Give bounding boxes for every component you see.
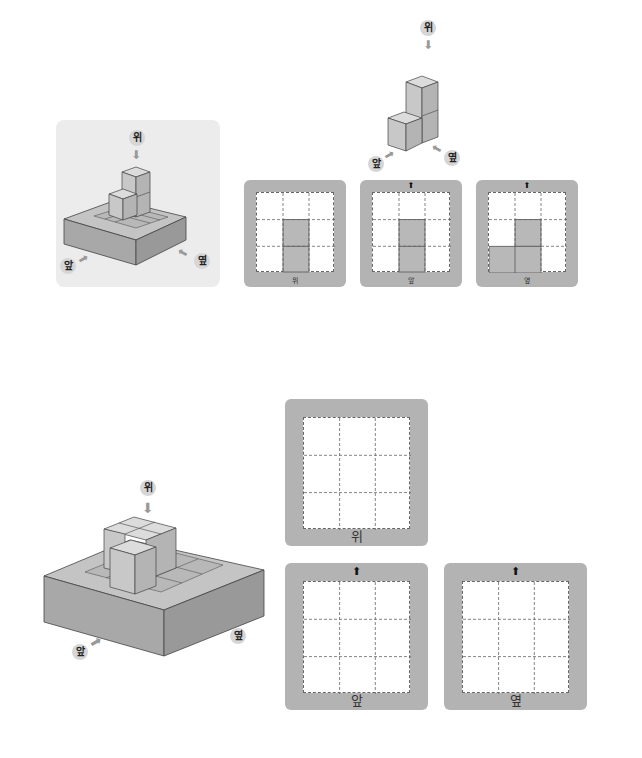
grid-lines: [463, 582, 570, 694]
problem-shape-3d: [30, 470, 280, 690]
label-side: 옆: [230, 628, 246, 644]
label-front: 앞: [368, 156, 384, 172]
view-label: 위: [244, 275, 346, 285]
label-top: 위: [420, 20, 436, 36]
grid-lines: [257, 193, 335, 273]
front-view-answer-grid[interactable]: [303, 581, 410, 693]
example-front-view-card: ⬆ 앞: [360, 180, 462, 287]
top-view-grid: [256, 192, 334, 272]
label-side: 옆: [444, 150, 460, 166]
down-arrow-icon: ⬇: [423, 38, 433, 52]
down-arrow-icon: ⬇: [142, 500, 154, 516]
label-front: 앞: [72, 644, 88, 660]
side-view-answer-grid[interactable]: [462, 581, 569, 693]
down-arrow-icon: ⬇: [131, 148, 141, 162]
example-top-view-card: 위: [244, 180, 346, 287]
example-shape: 위 ⬇ 앞 ⬆ 옆 ⬆: [340, 20, 460, 170]
up-arrow-icon: ⬆: [511, 565, 520, 578]
label-front: 앞: [60, 258, 76, 274]
up-arrow-icon: ⬆: [408, 181, 415, 190]
view-label: 위: [285, 526, 428, 545]
view-label: 옆: [444, 690, 587, 709]
up-arrow-icon: ⬆: [524, 181, 531, 190]
problem-3d-model: 위 ⬇ 앞 ⬆ 옆 ⬆: [30, 470, 280, 690]
label-top: 위: [129, 130, 145, 146]
problem-top-view-card: 위: [285, 399, 428, 546]
example-panel: 위 ⬇ 앞 ⬆ 옆 ⬆: [56, 120, 220, 287]
label-side: 옆: [194, 253, 210, 269]
grid-lines: [304, 418, 411, 530]
label-top: 위: [140, 480, 156, 496]
view-label: 옆: [476, 275, 578, 285]
view-label: 앞: [360, 275, 462, 285]
top-view-answer-grid[interactable]: [303, 417, 410, 529]
front-view-grid: [372, 192, 450, 272]
view-label: 앞: [285, 690, 428, 709]
example-side-view-card: ⬆ 옆: [476, 180, 578, 287]
grid-lines: [373, 193, 451, 273]
grid-lines: [304, 582, 411, 694]
up-arrow-icon: ⬆: [352, 565, 361, 578]
problem-side-view-card: ⬆ 옆: [444, 563, 587, 710]
grid-lines: [489, 193, 567, 273]
side-view-grid: [488, 192, 566, 272]
problem-front-view-card: ⬆ 앞: [285, 563, 428, 710]
